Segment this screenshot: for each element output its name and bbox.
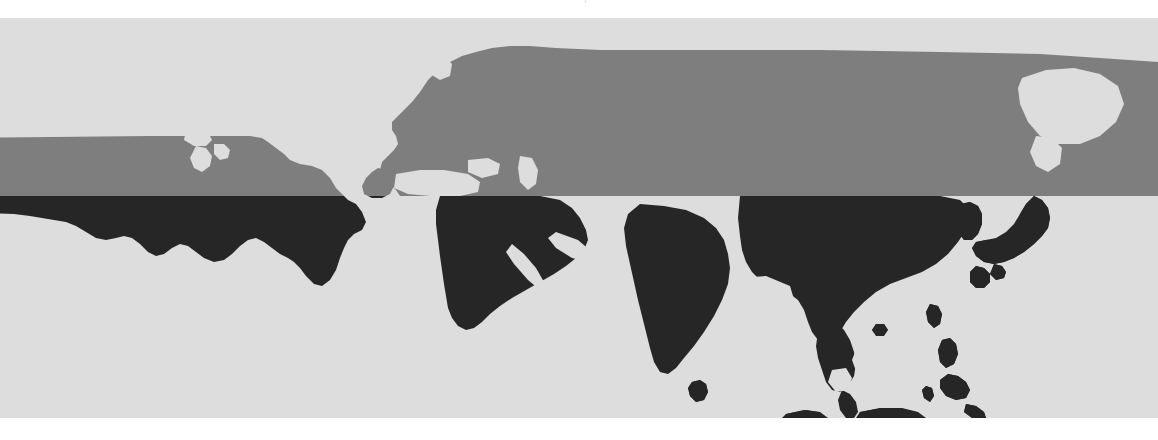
figure-caption-strip: ————— | ———— xyxy=(0,0,1158,18)
figure-root: ————— | ———— xyxy=(0,0,1158,440)
figure-bottom-margin xyxy=(0,418,1158,440)
figure-caption-text: ————— | ———— xyxy=(0,0,1158,4)
world-map-svg xyxy=(0,18,1158,418)
world-map-canvas xyxy=(0,18,1158,418)
mediterranean-sea xyxy=(394,170,480,196)
